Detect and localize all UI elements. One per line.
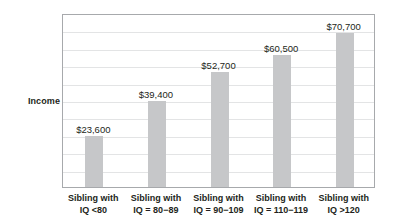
x-axis-label-line1: Sibling with	[318, 193, 369, 203]
x-axis-label: Sibling withIQ = 110−119	[250, 192, 312, 216]
bar	[85, 136, 103, 187]
x-axis-label-line1: Sibling with	[68, 193, 119, 203]
bar-value-label: $39,400	[129, 89, 183, 100]
x-axis-label-line2: IQ = 90−109	[188, 204, 250, 216]
plot-area	[62, 14, 375, 188]
x-axis-label-line2: IQ = 110−119	[250, 204, 312, 216]
bar	[148, 101, 166, 187]
x-axis-label-line2: IQ <80	[62, 204, 124, 216]
bar	[273, 55, 291, 187]
x-axis-label-line2: IQ = 80−89	[125, 204, 187, 216]
x-axis-label: Sibling withIQ <80	[62, 192, 124, 216]
y-axis-title: Income	[8, 96, 60, 107]
x-axis-label-line1: Sibling with	[131, 193, 182, 203]
x-axis-category-labels: Sibling withIQ <80Sibling withIQ = 80−89…	[62, 192, 375, 222]
x-axis-label: Sibling withIQ = 80−89	[125, 192, 187, 216]
bar-value-label: $23,600	[66, 124, 120, 135]
bar	[211, 72, 229, 187]
x-axis-label-line1: Sibling with	[193, 193, 244, 203]
bar-value-label: $70,700	[317, 21, 371, 32]
bar-chart: Income $23,600$39,400$52,700$60,500$70,7…	[0, 0, 393, 224]
x-axis-label: Sibling withIQ >120	[313, 192, 375, 216]
x-axis-label-line1: Sibling with	[256, 193, 307, 203]
bar-value-label: $52,700	[192, 60, 246, 71]
bar-value-label: $60,500	[254, 43, 308, 54]
bars-layer	[63, 15, 374, 187]
bar	[336, 33, 354, 187]
x-axis-label-line2: IQ >120	[313, 204, 375, 216]
x-axis-label: Sibling withIQ = 90−109	[188, 192, 250, 216]
